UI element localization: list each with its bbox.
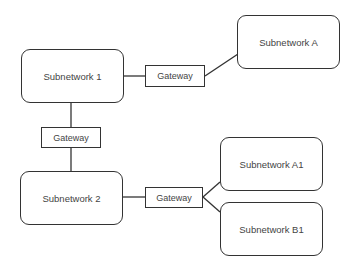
gateway-bottom-node: Gateway: [145, 187, 203, 208]
subnetwork-a1-label: Subnetwork A1: [240, 159, 304, 170]
gateway-middle-label: Gateway: [53, 133, 89, 143]
subnetwork-a-label: Subnetwork A: [259, 37, 318, 48]
subnetwork-2-node: Subnetwork 2: [20, 171, 123, 225]
gateway-top-node: Gateway: [145, 65, 205, 87]
subnetwork-1-label: Subnetwork 1: [43, 71, 101, 82]
edge-gateway-bottom-subneta1: [203, 182, 220, 197]
subnetwork-a1-node: Subnetwork A1: [220, 137, 323, 191]
subnetwork-a-node: Subnetwork A: [237, 15, 340, 69]
edge-gateway-top-subneta: [205, 54, 238, 76]
subnetwork-1-node: Subnetwork 1: [21, 49, 124, 103]
subnetwork-b1-label: Subnetwork B1: [239, 224, 303, 235]
gateway-top-label: Gateway: [157, 71, 193, 81]
gateway-middle-node: Gateway: [41, 127, 101, 148]
subnetwork-b1-node: Subnetwork B1: [220, 202, 323, 256]
edge-gateway-bottom-subnetb1: [203, 197, 220, 212]
subnetwork-2-label: Subnetwork 2: [42, 193, 100, 204]
gateway-bottom-label: Gateway: [156, 193, 192, 203]
